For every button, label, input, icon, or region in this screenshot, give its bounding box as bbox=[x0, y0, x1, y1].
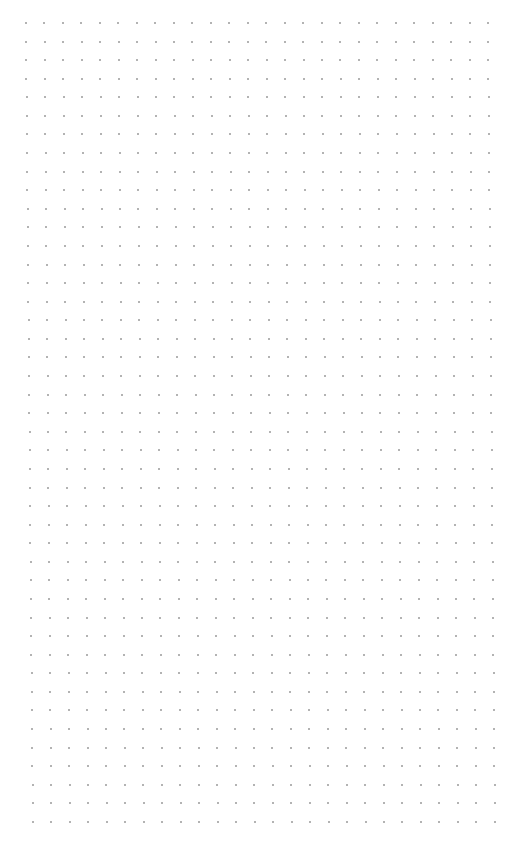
grid-dot bbox=[83, 356, 85, 358]
grid-dot bbox=[84, 449, 86, 451]
grid-dot bbox=[365, 821, 367, 823]
dot-grid-canvas[interactable] bbox=[0, 0, 508, 866]
grid-dot bbox=[400, 635, 402, 637]
grid-dot bbox=[341, 226, 343, 228]
grid-dot bbox=[419, 691, 421, 693]
grid-dot bbox=[361, 375, 363, 377]
grid-dot bbox=[229, 133, 231, 135]
grid-dot bbox=[229, 59, 231, 61]
grid-dot bbox=[29, 468, 31, 470]
grid-dot bbox=[155, 133, 157, 135]
grid-dot bbox=[474, 617, 476, 619]
grid-dot bbox=[120, 338, 122, 340]
grid-dot bbox=[232, 487, 234, 489]
grid-dot bbox=[155, 152, 157, 154]
grid-dot bbox=[103, 449, 105, 451]
grid-dot bbox=[362, 505, 364, 507]
grid-dot bbox=[233, 579, 235, 581]
grid-dot bbox=[489, 264, 491, 266]
grid-dot bbox=[490, 338, 492, 340]
grid-dot bbox=[49, 709, 51, 711]
grid-dot bbox=[454, 505, 456, 507]
grid-dot bbox=[396, 171, 398, 173]
grid-dot bbox=[161, 765, 163, 767]
grid-dot bbox=[211, 189, 213, 191]
grid-dot bbox=[307, 598, 309, 600]
grid-dot bbox=[272, 821, 274, 823]
grid-dot bbox=[327, 728, 329, 730]
grid-dot bbox=[305, 375, 307, 377]
grid-dot bbox=[434, 282, 436, 284]
grid-dot bbox=[340, 133, 342, 135]
grid-dot bbox=[382, 654, 384, 656]
grid-dot bbox=[49, 617, 51, 619]
grid-dot bbox=[156, 208, 158, 210]
grid-dot bbox=[381, 542, 383, 544]
grid-dot bbox=[457, 821, 459, 823]
grid-dot bbox=[473, 542, 475, 544]
grid-dot bbox=[139, 356, 141, 358]
grid-dot bbox=[470, 208, 472, 210]
grid-dot bbox=[249, 226, 251, 228]
grid-dot bbox=[230, 208, 232, 210]
grid-dot bbox=[142, 709, 144, 711]
grid-dot bbox=[268, 338, 270, 340]
grid-dot bbox=[469, 133, 471, 135]
grid-dot bbox=[138, 245, 140, 247]
grid-dot bbox=[328, 821, 330, 823]
grid-dot bbox=[248, 171, 250, 173]
grid-dot bbox=[140, 468, 142, 470]
grid-dot bbox=[160, 728, 162, 730]
grid-dot bbox=[451, 133, 453, 135]
grid-dot bbox=[176, 412, 178, 414]
grid-dot bbox=[416, 338, 418, 340]
grid-dot bbox=[211, 208, 213, 210]
grid-dot bbox=[173, 78, 175, 80]
grid-dot bbox=[143, 821, 145, 823]
grid-dot bbox=[269, 412, 271, 414]
grid-dot bbox=[196, 542, 198, 544]
grid-dot bbox=[216, 709, 218, 711]
grid-dot bbox=[488, 96, 490, 98]
grid-dot bbox=[419, 747, 421, 749]
grid-dot bbox=[231, 338, 233, 340]
grid-dot bbox=[270, 579, 272, 581]
grid-dot bbox=[324, 449, 326, 451]
grid-dot bbox=[173, 22, 175, 24]
grid-dot bbox=[157, 282, 159, 284]
grid-dot bbox=[65, 394, 67, 396]
grid-dot bbox=[47, 431, 49, 433]
grid-dot bbox=[469, 78, 471, 80]
grid-dot bbox=[489, 301, 491, 303]
grid-dot bbox=[118, 96, 120, 98]
grid-dot bbox=[452, 226, 454, 228]
grid-dot bbox=[396, 226, 398, 228]
grid-dot bbox=[327, 784, 329, 786]
grid-dot bbox=[326, 598, 328, 600]
grid-dot bbox=[433, 152, 435, 154]
grid-dot bbox=[358, 96, 360, 98]
grid-dot bbox=[324, 412, 326, 414]
grid-dot bbox=[324, 431, 326, 433]
grid-dot bbox=[452, 208, 454, 210]
grid-dot bbox=[49, 672, 51, 674]
grid-dot bbox=[415, 208, 417, 210]
grid-dot bbox=[488, 171, 490, 173]
grid-dot bbox=[64, 301, 66, 303]
grid-dot bbox=[305, 301, 307, 303]
grid-dot bbox=[302, 41, 304, 43]
grid-dot bbox=[488, 115, 490, 117]
grid-dot bbox=[196, 598, 198, 600]
grid-dot bbox=[65, 412, 67, 414]
grid-dot bbox=[399, 561, 401, 563]
grid-dot bbox=[360, 264, 362, 266]
grid-dot bbox=[215, 617, 217, 619]
grid-dot bbox=[26, 152, 28, 154]
grid-dot bbox=[380, 449, 382, 451]
grid-dot bbox=[346, 784, 348, 786]
grid-dot bbox=[44, 41, 46, 43]
grid-dot bbox=[432, 22, 434, 24]
grid-dot bbox=[139, 375, 141, 377]
grid-dot bbox=[285, 133, 287, 135]
grid-dot bbox=[415, 301, 417, 303]
